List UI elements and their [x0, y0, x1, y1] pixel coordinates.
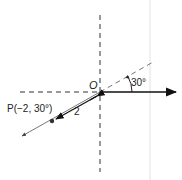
- angle-label: 30°: [131, 77, 146, 88]
- point-p: [50, 119, 54, 123]
- polar-coordinate-diagram: O 30° 2 P(−2, 30°): [0, 0, 182, 180]
- opposite-ray: [22, 92, 100, 136]
- distance-label: 2: [74, 106, 80, 117]
- origin-label: O: [89, 79, 98, 91]
- point-label: P(−2, 30°): [7, 103, 52, 114]
